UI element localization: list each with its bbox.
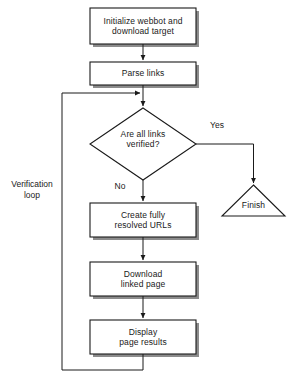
node-finish	[222, 185, 285, 216]
node-parse-links	[90, 62, 196, 85]
node-are-all-links-verified	[90, 108, 196, 180]
node-create-resolved-urls	[90, 203, 196, 237]
flowchart-diagram: Initialize webbot and download target Pa…	[0, 0, 300, 380]
flowchart-canvas	[0, 0, 300, 380]
node-display-page-results	[90, 320, 196, 354]
node-initialize	[90, 8, 196, 44]
node-download-linked-page	[90, 262, 196, 296]
edge-decision-yes-to-finish	[196, 144, 254, 183]
